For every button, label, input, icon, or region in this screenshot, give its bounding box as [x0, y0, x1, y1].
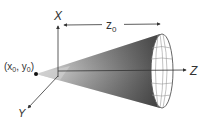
cone-base: [151, 34, 173, 108]
z-axis-label: Z: [189, 64, 198, 78]
x-axis-label: X: [53, 9, 63, 23]
cone-diagram: X Z Y z0 (x0, y0): [0, 0, 211, 123]
y-axis-label: Y: [18, 107, 26, 119]
apex-point: [34, 72, 38, 76]
y-axis-line: [28, 76, 58, 108]
apex-label: (x0, y0): [4, 61, 34, 73]
